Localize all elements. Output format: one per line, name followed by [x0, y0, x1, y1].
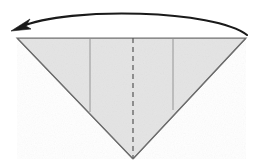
diagram-canvas: [0, 0, 259, 166]
origami-fold-diagram: Inverted triangle of folded paper with a…: [0, 0, 259, 166]
paper-triangle: [17, 38, 246, 159]
fold-arrow-shaft: [20, 13, 247, 35]
